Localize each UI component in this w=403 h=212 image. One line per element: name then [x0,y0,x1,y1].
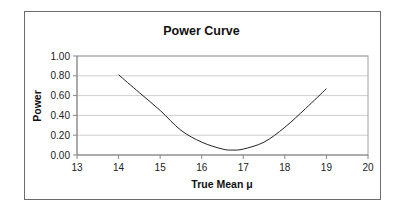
x-tick-label: 19 [321,162,333,173]
x-tick-label: 13 [71,162,83,173]
plot-area [77,56,368,155]
y-tick-label: 0.40 [51,110,71,121]
x-tick-label: 16 [196,162,208,173]
power-curve-line [119,75,327,150]
x-tick-label: 15 [155,162,167,173]
y-tick-label: 0.80 [51,70,71,81]
y-axis-label: Power [31,90,43,122]
y-tick-label: 0.60 [51,90,71,101]
y-tick-label: 0.20 [51,130,71,141]
x-tick-labels: 1314151617181920 [71,162,374,173]
power-curve-chart: 0.000.200.400.600.801.00 131415161718192… [0,0,403,212]
axes [73,56,368,159]
x-tick-label: 14 [113,162,125,173]
x-axis-label: True Mean μ [191,178,252,190]
y-tick-labels: 0.000.200.400.600.801.00 [51,51,71,161]
x-tick-label: 18 [279,162,291,173]
y-tick-label: 1.00 [51,51,71,62]
x-tick-label: 17 [238,162,250,173]
gridlines [77,56,368,135]
y-tick-label: 0.00 [51,150,71,161]
x-tick-label: 20 [362,162,374,173]
